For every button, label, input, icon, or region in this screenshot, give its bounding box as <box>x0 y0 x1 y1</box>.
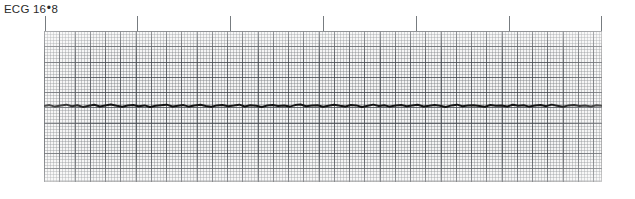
tick-mark-6 <box>601 16 602 31</box>
tick-mark-4 <box>416 16 417 31</box>
timing-tick-ruler <box>44 16 602 31</box>
caption-prefix: ECG <box>4 3 30 15</box>
ecg-grid-fine <box>44 31 602 182</box>
ecg-trace-svg <box>44 31 602 182</box>
ecg-paper-strip <box>44 31 602 182</box>
paper-scan-texture <box>44 31 602 182</box>
tick-mark-1 <box>137 16 138 31</box>
ecg-waveform-trace <box>44 31 602 182</box>
figure-caption: ECG 16•8 <box>4 1 58 16</box>
caption-number-minor: 8 <box>52 3 59 15</box>
tick-mark-2 <box>230 16 231 31</box>
caption-number-major: 16 <box>33 3 46 15</box>
tick-mark-0 <box>45 16 46 31</box>
ecg-grid-major <box>44 31 602 182</box>
ecg-trace-path <box>44 104 602 107</box>
tick-mark-5 <box>509 16 510 31</box>
tick-mark-3 <box>323 16 324 31</box>
ecg-figure: ECG 16•8 <box>0 0 635 199</box>
